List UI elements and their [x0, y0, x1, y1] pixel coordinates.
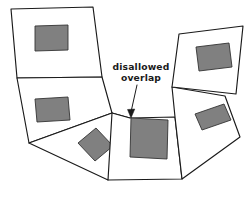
overlap-diagram: disallowed overlap: [0, 0, 251, 204]
disallowed-overlap-annotation: disallowed overlap: [113, 61, 170, 118]
cell-right-lower: [172, 87, 240, 179]
cell-top-left: [11, 7, 102, 78]
patch-bottom-center-overlapping: [130, 118, 168, 159]
diagram-canvas: disallowed overlap: [0, 0, 251, 204]
annotation-line-1: disallowed: [113, 61, 170, 72]
patch-top-left: [35, 25, 68, 51]
patch-top-right: [196, 43, 232, 71]
cell-top-right: [172, 26, 243, 94]
cell-right-lower-outline: [172, 87, 240, 179]
leader-line: [131, 85, 137, 112]
patch-mid-left: [35, 97, 70, 122]
cells-group: [11, 7, 243, 180]
arrow-head-icon: [128, 109, 135, 118]
annotation-line-2: overlap: [121, 72, 161, 83]
